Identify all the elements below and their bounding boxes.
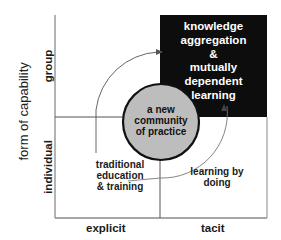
center-label: a new community of practice [123, 104, 199, 138]
text-line: aggregation [160, 34, 267, 48]
text-line: doing [182, 177, 252, 188]
text-line: of practice [123, 126, 199, 137]
text-line: a new [123, 104, 199, 115]
text-line: & [160, 48, 267, 62]
text-line: learning by [182, 166, 252, 177]
x-label-tacit: tacit [201, 222, 225, 234]
quadrant-bottom-left-label: traditional education & training [80, 159, 160, 193]
text-line: knowledge [160, 20, 267, 34]
quadrant-top-right-label: knowledge aggregation & mutually depende… [160, 16, 267, 103]
y-label-group: group [42, 41, 54, 91]
text-line: community [123, 115, 199, 126]
y-axis-title: form of capability [16, 71, 31, 161]
text-line: dependent [160, 75, 267, 89]
text-line: traditional [80, 159, 160, 170]
x-label-explicit: explicit [86, 222, 126, 234]
text-line: learning [160, 89, 267, 103]
quadrant-bottom-right-label: learning by doing [182, 166, 252, 188]
y-label-individual: individual [42, 132, 54, 202]
text-line: education [80, 170, 160, 181]
text-line: mutually [160, 61, 267, 75]
text-line: & training [80, 181, 160, 192]
